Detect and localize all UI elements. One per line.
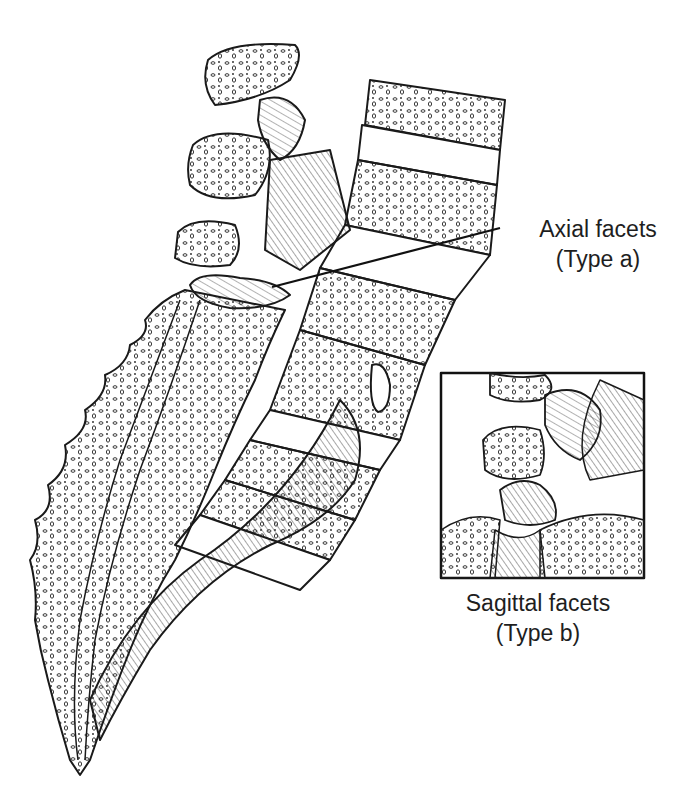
sagittal-facets-subtitle: (Type b) — [440, 618, 636, 648]
sagittal-facets-inset — [441, 373, 644, 578]
sagittal-facets-label: Sagittal facets (Type b) — [440, 588, 636, 648]
anatomy-figure: Axial facets (Type a) Sagittal facets (T… — [0, 0, 686, 791]
axial-facets-title: Axial facets — [510, 214, 686, 244]
axial-facets-subtitle: (Type a) — [510, 244, 686, 274]
sagittal-facets-title: Sagittal facets — [440, 588, 636, 618]
spine-illustration — [0, 0, 686, 791]
axial-facets-label: Axial facets (Type a) — [510, 214, 686, 274]
